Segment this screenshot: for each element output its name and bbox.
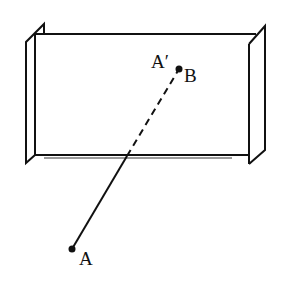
label-b: B [184,65,197,86]
virtual-line-dashed [127,69,179,156]
right-stand-bracket [249,26,265,164]
incident-line-solid [72,156,127,249]
point-a-dot [69,246,76,253]
plane-mirror [35,34,250,164]
right-bracket-outline [249,26,265,164]
label-a-prime: A′ [151,51,169,72]
point-b-dot [176,66,183,73]
diagram-svg: A A′ B [0,0,282,281]
label-a: A [79,248,93,269]
mirror-image-diagram: A A′ B [0,0,282,281]
